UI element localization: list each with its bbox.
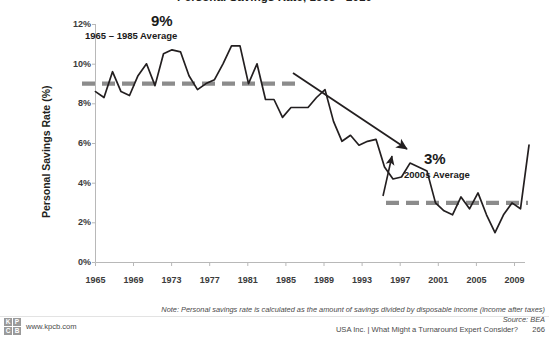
annotation-9pct-label: 1965 – 1985 Average (85, 30, 177, 41)
logo-cell-k: K (4, 318, 12, 326)
y-tick-label-4: 4% (57, 179, 91, 188)
x-tick-marks (96, 263, 515, 267)
annotation-3pct-value: 3% (424, 150, 446, 167)
x-tick-label-1997: 1997 (380, 276, 420, 285)
x-tick-label-1989: 1989 (304, 276, 344, 285)
y-tick-label-10: 10% (57, 60, 91, 69)
y-tick-marks (92, 25, 96, 263)
y-tick-label-2: 2% (57, 218, 91, 227)
trend-arrow (293, 73, 407, 149)
x-tick-label-1973: 1973 (152, 276, 192, 285)
logo-cell-b: B (13, 327, 21, 335)
y-axis-title: Personal Savings Rate (%) (40, 86, 52, 218)
slide-canvas: Personal Savings Rate, 1965 - 2010 (0, 0, 549, 339)
y-tick-label-6: 6% (57, 139, 91, 148)
annotation-9pct-value: 9% (151, 12, 173, 29)
x-tick-label-2001: 2001 (418, 276, 458, 285)
y-tick-label-0: 0% (57, 258, 91, 267)
annotation-3pct-label: 2000s Average (404, 169, 470, 180)
logo-cell-p: P (13, 318, 21, 326)
kpcb-logo-mark: K P C B (4, 318, 21, 335)
x-tick-label-1985: 1985 (266, 276, 306, 285)
x-tick-label-1977: 1977 (190, 276, 230, 285)
x-tick-label-1965: 1965 (76, 276, 116, 285)
logo-cell-c: C (4, 327, 12, 335)
footer-divider (0, 316, 549, 317)
x-tick-label-1969: 1969 (114, 276, 154, 285)
x-tick-label-1981: 1981 (228, 276, 268, 285)
savings-rate-line (96, 46, 530, 233)
kpcb-logo[interactable]: K P C B www.kpcb.com (4, 318, 77, 335)
deck-footer-line: USA Inc. | What Might a Turnaround Exper… (336, 325, 545, 334)
y-tick-label-12: 12% (57, 20, 91, 29)
deck-title: USA Inc. | What Might a Turnaround Exper… (336, 325, 518, 334)
y-tick-label-8: 8% (57, 99, 91, 108)
x-tick-label-2009: 2009 (495, 276, 535, 285)
kpcb-url[interactable]: www.kpcb.com (26, 322, 77, 331)
x-tick-label-1993: 1993 (342, 276, 382, 285)
page-number: 266 (532, 325, 545, 334)
x-tick-label-2005: 2005 (456, 276, 496, 285)
chart-note: Note: Personal savings rate is calculate… (161, 305, 545, 314)
